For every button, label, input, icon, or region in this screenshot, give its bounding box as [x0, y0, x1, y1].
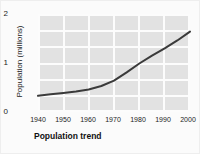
y-tick-label-1: 1	[0, 59, 8, 67]
x-axis-title: Population trend	[34, 131, 102, 141]
chart-figure: 2 1 0 1940 1950 1960 1970 1980 1990 2000…	[0, 0, 200, 154]
y-axis-title: Population (millions)	[15, 2, 24, 122]
x-tick-label-2000: 2000	[173, 116, 200, 124]
y-tick-label-2: 2	[0, 10, 8, 18]
plot-area	[38, 14, 190, 112]
population-line-series	[38, 14, 190, 112]
data-line	[38, 32, 190, 96]
y-tick-label-0: 0	[0, 108, 8, 116]
